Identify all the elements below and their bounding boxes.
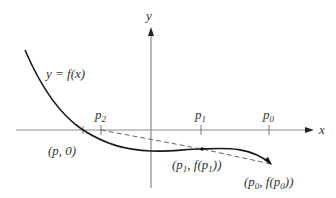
x-axis-arrow-icon: [305, 127, 314, 133]
x-axis-label: x: [318, 122, 325, 137]
diagram-canvas: x y p2 p1 p0 y = f(x) (p, 0) (p1, f(p1))…: [0, 0, 336, 198]
root-label: (p, 0): [48, 143, 76, 158]
tick-label-p2: p2: [94, 107, 107, 124]
y-axis-label: y: [144, 8, 152, 23]
tick-label-p0: p0: [262, 107, 275, 124]
point-p1: [200, 147, 204, 151]
y-axis: y: [144, 8, 154, 188]
p1-point-label: (p1, f(p1)): [172, 157, 221, 174]
tick-label-p1: p1: [194, 107, 206, 124]
curve-label: y = f(x): [44, 66, 85, 81]
secant-line: [101, 130, 271, 164]
p0-point-label: (p0, f(p0)): [244, 174, 293, 191]
y-axis-arrow-icon: [148, 27, 154, 36]
x-axis: x: [16, 122, 325, 137]
